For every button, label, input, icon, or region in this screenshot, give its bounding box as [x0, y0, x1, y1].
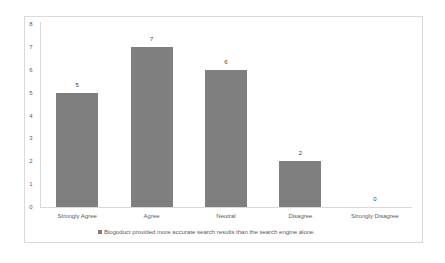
data-label: 7: [132, 35, 172, 43]
x-axis: [40, 207, 412, 208]
x-tick-label: Agree: [112, 212, 192, 220]
y-tick-label: 5: [26, 89, 36, 97]
bar-neutral: [205, 70, 247, 207]
y-tick-label: 6: [26, 66, 36, 74]
y-tick-label: 3: [26, 134, 36, 142]
legend: Blogoduct provided more accurate search …: [98, 228, 338, 236]
y-tick-label: 8: [26, 20, 36, 28]
y-axis: [40, 22, 41, 208]
legend-swatch: [98, 230, 102, 234]
data-label: 5: [57, 81, 97, 89]
y-tick-label: 7: [26, 43, 36, 51]
legend-label: Blogoduct provided more accurate search …: [104, 229, 315, 235]
x-tick-label: Neutral: [186, 212, 266, 220]
y-tick-label: 4: [26, 112, 36, 120]
x-tick-label: Disagree: [260, 212, 340, 220]
x-tick-label: Strongly Agree: [37, 212, 117, 220]
data-label: 2: [280, 149, 320, 157]
bar-agree: [131, 47, 173, 207]
y-tick-label: 2: [26, 157, 36, 165]
y-tick-label: 1: [26, 180, 36, 188]
y-tick-label: 0: [26, 203, 36, 211]
data-label: 6: [206, 58, 246, 66]
bar-disagree: [279, 161, 321, 207]
data-label: 0: [355, 195, 395, 203]
x-tick-label: Strongly Disagree: [335, 212, 415, 220]
bar-strongly-agree: [56, 93, 98, 207]
